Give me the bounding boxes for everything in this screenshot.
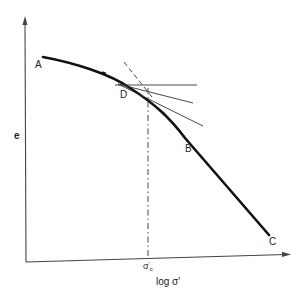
compression-curve xyxy=(43,57,269,235)
x-axis xyxy=(26,255,286,263)
point-label-c: C xyxy=(269,236,276,247)
casagrande-diagram: A D B C e σ′c log σ′ xyxy=(0,0,302,302)
y-axis-label: e xyxy=(14,130,20,141)
construction-lines xyxy=(115,62,203,258)
point-label-a: A xyxy=(35,59,42,70)
axes xyxy=(23,16,292,262)
tangent-line xyxy=(118,84,193,103)
point-label-d: D xyxy=(120,89,127,100)
y-axis xyxy=(25,22,26,262)
x-axis-arrow-icon xyxy=(282,252,291,257)
x-axis-label: log σ′ xyxy=(156,276,180,287)
point-label-b: B xyxy=(185,143,192,154)
y-axis-arrow-icon xyxy=(23,16,28,25)
bisector-line xyxy=(118,84,203,126)
x-tick-label: σ′c xyxy=(143,261,153,272)
